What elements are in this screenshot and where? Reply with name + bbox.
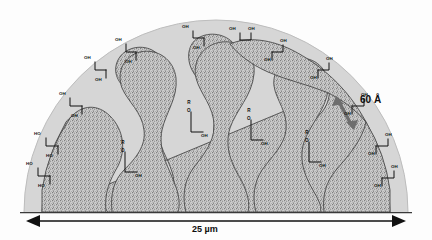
interior-chain-label: R O — [121, 141, 125, 153]
surface-group-label: OH — [125, 60, 132, 64]
figure-canvas: HO HO HO HO OH OH OH OH OH OH OH OH OH O… — [0, 0, 432, 240]
chain-r-label: R — [121, 141, 125, 146]
surface-group-label: HO — [38, 184, 45, 188]
surface-group-label: OH — [264, 58, 271, 62]
interior-chain-label: R O — [305, 131, 309, 143]
chain-o-label: O — [121, 149, 125, 154]
surface-group-label: OH — [385, 133, 392, 137]
surface-group-label: OH — [344, 112, 351, 116]
chain-r-label: R — [187, 101, 191, 106]
interior-chain-label: R O — [187, 101, 191, 113]
surface-group-label: OH — [374, 184, 381, 188]
surface-group-label: OH — [193, 46, 200, 50]
surface-group-label: OH — [280, 39, 287, 43]
pore-size-label: 60 Å — [360, 95, 381, 105]
particle-cross-section-diagram — [0, 0, 432, 240]
surface-group-label: HO — [46, 154, 53, 158]
particle-size-label: 25 µm — [192, 225, 218, 234]
surface-group-label: OH — [84, 56, 91, 60]
chain-o-label: O — [247, 117, 251, 122]
surface-group-label: OH — [95, 78, 102, 82]
surface-group-label: OH — [248, 27, 255, 31]
surface-group-label: OH — [326, 57, 333, 61]
surface-group-label: OH — [229, 27, 236, 31]
surface-group-label: OH — [182, 25, 189, 29]
interior-chain-label: R O — [247, 109, 251, 121]
chain-r-label: R — [305, 131, 309, 136]
surface-group-label: HO — [34, 132, 41, 136]
surface-group-label: OH — [368, 152, 375, 156]
chain-oh-label: OH — [261, 142, 268, 146]
chain-r-label: R — [247, 109, 251, 114]
surface-group-label: OH — [59, 92, 66, 96]
chain-o-label: O — [305, 139, 309, 144]
surface-group-label: OH — [391, 165, 398, 169]
surface-group-label: HO — [26, 162, 33, 166]
surface-group-label: OH — [115, 38, 122, 42]
surface-group-label: OH — [71, 114, 78, 118]
chain-oh-label: OH — [319, 164, 326, 168]
surface-group-label: OH — [310, 76, 317, 80]
chain-o-label: O — [187, 109, 191, 114]
chain-oh-label: OH — [135, 174, 142, 178]
chain-oh-label: OH — [201, 134, 208, 138]
